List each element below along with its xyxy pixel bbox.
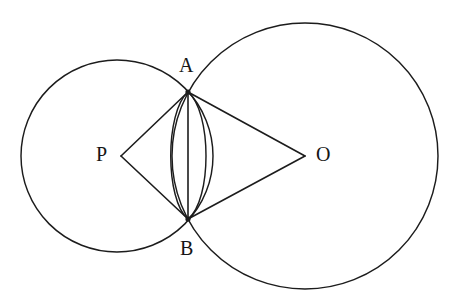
point-label-p: P bbox=[96, 144, 108, 164]
vertex-dot-a bbox=[185, 89, 190, 94]
point-label-b: B bbox=[180, 238, 194, 258]
segment-p-a bbox=[121, 92, 188, 156]
vertex-dot-b bbox=[185, 216, 190, 221]
point-label-o: O bbox=[316, 144, 331, 164]
geometry-figure: A B P O bbox=[0, 0, 464, 304]
right-lens-arc bbox=[188, 92, 206, 219]
point-label-a: A bbox=[179, 55, 194, 75]
left-circle bbox=[21, 60, 213, 252]
segment-p-b bbox=[121, 156, 188, 219]
geometry-canvas bbox=[0, 0, 464, 304]
